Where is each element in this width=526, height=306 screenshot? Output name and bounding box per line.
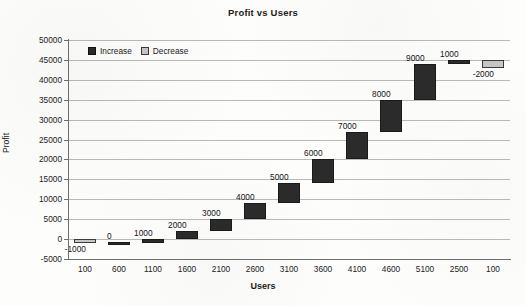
waterfall-bar[interactable] (210, 219, 231, 231)
waterfall-bar[interactable] (244, 203, 265, 219)
waterfall-bar[interactable] (312, 159, 333, 183)
gridline (68, 239, 510, 240)
bar-value-label: 4000 (236, 192, 254, 202)
bar-value-label: 1000 (134, 228, 152, 238)
x-axis-tick-label: 3100 (280, 264, 298, 274)
gridline (68, 159, 510, 160)
legend-item-increase: Increase (88, 46, 132, 56)
x-axis-tick-label: 1600 (178, 264, 196, 274)
waterfall-bar[interactable] (380, 100, 401, 132)
bar-value-label: 5000 (270, 172, 288, 182)
legend-swatch-increase-icon (88, 47, 96, 55)
y-axis-tick-label: 10000 (39, 194, 62, 204)
x-axis-tick-label: 2500 (450, 264, 468, 274)
waterfall-bar[interactable] (142, 239, 163, 243)
x-axis-tick-label: 100 (486, 264, 500, 274)
bar-value-label: 8000 (372, 89, 390, 99)
y-axis-title: Profit (1, 133, 11, 153)
waterfall-bar[interactable] (108, 242, 129, 245)
bar-value-label: 1000 (440, 49, 458, 59)
waterfall-bar[interactable] (414, 64, 435, 100)
waterfall-bar[interactable] (448, 60, 469, 64)
x-axis-tick-label: 4600 (382, 264, 400, 274)
bar-value-label: 0 (107, 231, 112, 241)
y-axis-tick-label: 50000 (39, 35, 62, 45)
x-axis-tick-label: 3600 (314, 264, 332, 274)
bar-value-label: -2000 (473, 69, 494, 79)
y-axis-tick-label: 0 (57, 234, 62, 244)
x-axis-tick-label: 5100 (416, 264, 434, 274)
gridline (68, 219, 510, 220)
bar-value-label: 3000 (202, 208, 220, 218)
gridline (68, 40, 510, 41)
y-axis-tick-label: 40000 (39, 75, 62, 85)
legend-label-decrease: Decrease (153, 46, 189, 56)
x-axis-tick-label: 2100 (212, 264, 230, 274)
x-axis-line (68, 259, 511, 260)
y-axis-tick-label: 15000 (39, 174, 62, 184)
x-axis-title: Users (0, 281, 526, 291)
legend-swatch-decrease-icon (141, 47, 149, 55)
chart-legend: Increase Decrease (88, 46, 188, 56)
chart-title: Profit vs Users (0, 7, 526, 18)
y-axis-tick-label: 35000 (39, 95, 62, 105)
legend-label-increase: Increase (100, 46, 132, 56)
y-axis-tick-label: 20000 (39, 154, 62, 164)
waterfall-bar[interactable] (278, 183, 299, 203)
y-axis-tick-label: 45000 (39, 55, 62, 65)
waterfall-bar[interactable] (346, 132, 367, 160)
legend-item-decrease: Decrease (141, 46, 189, 56)
bar-value-label: 7000 (338, 121, 356, 131)
x-axis-tick-label: 100 (78, 264, 92, 274)
gridline (68, 60, 510, 61)
x-axis-tick-label: 600 (112, 264, 126, 274)
x-axis-tick-label: 2600 (246, 264, 264, 274)
gridline (68, 80, 510, 81)
gridline (68, 100, 510, 101)
plot-area: 5000045000400003500030000250002000015000… (68, 40, 510, 259)
waterfall-bar[interactable] (74, 239, 95, 243)
gridline (68, 120, 510, 121)
gridline (68, 140, 510, 141)
y-axis-tick-label: -5000 (41, 254, 62, 264)
bar-value-label: 6000 (304, 148, 322, 158)
gridline (68, 179, 510, 180)
x-axis-tick-label: 4100 (348, 264, 366, 274)
waterfall-bar[interactable] (176, 231, 197, 239)
y-axis-tick-label: 25000 (39, 135, 62, 145)
waterfall-chart: Profit vs Users 500004500040000350003000… (0, 0, 526, 306)
y-axis-tick-label: 5000 (44, 214, 62, 224)
y-axis-line (68, 39, 69, 260)
bar-value-label: 9000 (406, 53, 424, 63)
y-axis-tick-label: 30000 (39, 115, 62, 125)
x-axis-tick-label: 1100 (144, 264, 162, 274)
waterfall-bar[interactable] (482, 60, 503, 68)
bar-value-label: 2000 (168, 220, 186, 230)
